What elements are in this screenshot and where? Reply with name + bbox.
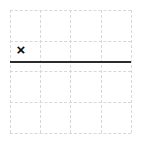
x-mark: × — [6, 42, 36, 57]
horizontal-rule — [10, 61, 131, 63]
grid-line-horizontal-4 — [10, 102, 131, 103]
grid-line-horizontal-5 — [10, 133, 131, 134]
grid-canvas: × — [0, 0, 141, 144]
grid-line-horizontal-1 — [10, 10, 131, 11]
grid-layer — [0, 0, 141, 144]
grid-line-vertical-5 — [131, 10, 132, 133]
grid-line-horizontal-3 — [10, 71, 131, 72]
